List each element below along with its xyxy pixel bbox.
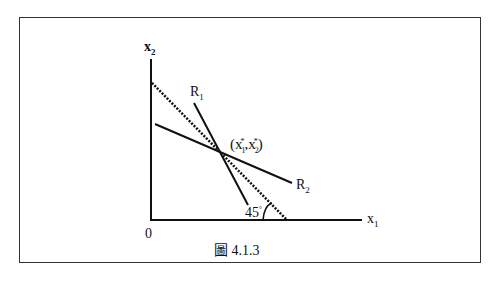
y-axis-label: x2	[144, 40, 156, 54]
eq-x1-sup: *	[241, 137, 245, 146]
r2-line	[155, 124, 292, 183]
y-axis-label-sub: 2	[151, 47, 156, 57]
x-axis-label-sub: 1	[374, 219, 379, 229]
origin-label: 0	[145, 227, 152, 241]
eq-x2-sub: 2	[255, 146, 259, 155]
r1-label: R1	[190, 85, 204, 99]
r1-label-base: R	[190, 84, 199, 99]
equilibrium-label: (x1*,x2*)	[230, 137, 263, 152]
r2-label-sub: 2	[305, 185, 310, 195]
eq-x1-sub: 1	[242, 146, 246, 155]
r1-line	[194, 103, 248, 205]
r1-label-sub: 1	[199, 92, 204, 102]
angle-arc	[263, 203, 272, 220]
r2-label-base: R	[296, 177, 305, 192]
y-axis-label-base: x	[144, 39, 151, 54]
angle-label: 45°	[245, 206, 262, 220]
r2-label: R2	[296, 178, 310, 192]
x-axis-label-base: x	[367, 211, 374, 226]
angle-value: 45	[245, 205, 259, 220]
x-axis-label: x1	[367, 212, 379, 226]
figure-caption: 圖 4.1.3	[214, 244, 260, 258]
eq-x2-sup: *	[254, 137, 258, 146]
degree-symbol: °	[259, 205, 262, 213]
